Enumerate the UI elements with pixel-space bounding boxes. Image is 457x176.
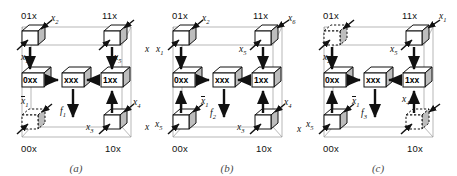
edge-label-x2: x2 <box>202 13 209 25</box>
edge-label-right-cut-top: x <box>145 44 149 54</box>
cube-face-1xx: 1xx <box>103 75 117 85</box>
corner-label-10x: 10x <box>407 143 423 154</box>
cube-face-0xx: 0xx <box>325 75 339 85</box>
cube-face-0xx: 0xx <box>174 75 188 85</box>
edge-label-x5-bottom: x5 <box>155 119 162 131</box>
output-label-f3: f3 <box>361 108 367 120</box>
corner-label-10x: 10x <box>105 143 121 154</box>
corner-label-10x: 10x <box>256 143 272 154</box>
cube-face-1xx: 1xx <box>254 75 268 85</box>
edge-label-x3: x3 <box>237 122 244 134</box>
edge-label-x1-bar: x1 <box>352 96 359 108</box>
corner-label-01x: 01x <box>21 10 37 21</box>
edge-label-x1: x1 <box>21 52 28 64</box>
corner-label-11x: 11x <box>102 10 117 21</box>
edge-label-x4: x4 <box>284 97 291 109</box>
corner-label-01x: 01x <box>323 10 339 21</box>
edge-label-x1: x1 <box>439 11 446 23</box>
corner-label-01x: 01x <box>172 10 188 21</box>
edge-label-x5: x5 <box>114 52 121 64</box>
arrow-in-bottom-right <box>429 104 440 112</box>
edge-label-x4: x4 <box>133 97 140 109</box>
edge-label-x6: x6 <box>288 13 295 25</box>
edge-label-x3: x3 <box>86 122 93 134</box>
output-label-f2: f2 <box>210 108 216 120</box>
edge-label-right-cut-bottom: x <box>145 122 149 132</box>
edge-label-x4: x4 <box>402 94 409 106</box>
arrow-in-x1bar <box>42 104 52 112</box>
panel-c: 0xx xxx 1xx 01x 11x 00x 10x x1 x5 x2 x1 … <box>302 0 454 176</box>
corner-label-00x: 00x <box>21 143 37 154</box>
cube-face-xxx: xxx <box>215 75 229 85</box>
edge-label-right-cut: x <box>297 124 301 134</box>
edge-label-x5: x5 <box>390 44 397 56</box>
edge-label-x2: x2 <box>51 13 58 25</box>
corner-label-00x: 00x <box>172 143 188 154</box>
edge-label-x1-bar: x1 <box>201 96 208 108</box>
corner-label-11x: 11x <box>402 10 417 21</box>
caption-b: (b) <box>151 162 303 174</box>
panel-a: 0xx xxx 1xx 01x 11x 00x 10x x2 x1 x1 x5 … <box>0 0 152 176</box>
edge-label-x5: x5 <box>239 44 246 56</box>
caption-c: (c) <box>302 162 454 174</box>
cube-face-xxx: xxx <box>366 75 380 85</box>
corner-label-11x: 11x <box>253 10 268 21</box>
cube-face-xxx: xxx <box>64 75 78 85</box>
output-label-f1: f1 <box>60 106 66 118</box>
edge-label-x1-bar: x1 <box>21 96 28 108</box>
caption-a: (a) <box>0 162 152 174</box>
edge-label-x2: x2 <box>323 52 330 64</box>
panel-b: 0xx xxx 1xx 01x 11x 00x 10x x2 x1 x6 x5 … <box>151 0 303 176</box>
figure-three-panel-cube-diagram: 0xx xxx 1xx 01x 11x 00x 10x x2 x1 x1 x5 … <box>0 0 457 176</box>
arrow-in-top-left <box>343 20 354 29</box>
edge-label-x1: x1 <box>156 44 163 56</box>
cube-face-0xx: 0xx <box>23 75 37 85</box>
corner-label-00x: 00x <box>323 143 339 154</box>
edge-label-x5-bottom: x5 <box>306 119 313 131</box>
cube-face-1xx: 1xx <box>405 75 419 85</box>
